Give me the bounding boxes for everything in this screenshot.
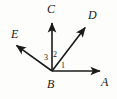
geometry-figure: A B C D E 1 2 3 [0,0,117,99]
rays-drawing [0,0,117,99]
point-label-C: C [47,3,55,15]
point-label-D: D [88,9,97,21]
point-label-E: E [11,28,18,40]
angle-label-2: 2 [53,51,57,59]
angle-label-3: 3 [44,54,48,62]
angle-label-1: 1 [61,62,65,70]
point-label-A: A [101,76,108,88]
point-label-B: B [47,78,54,90]
